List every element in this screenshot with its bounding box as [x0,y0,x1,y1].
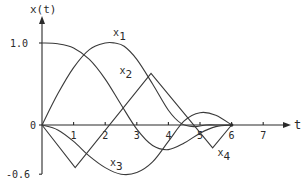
chart-svg: x(t)t1.00-0.61234567 x1x2x3x4 [0,0,303,187]
curve-x1 [42,42,232,126]
y-axis-label: x(t) [30,3,57,16]
x-tick-label: 7 [260,130,266,141]
x-axis-arrow-icon [283,122,291,128]
curve-x3 [42,112,232,174]
curve-label-x4: x4 [217,147,230,163]
curve-x4 [42,73,232,167]
curves [42,42,233,174]
endpoint-dot [230,123,234,127]
line-chart: x(t)t1.00-0.61234567 x1x2x3x4 [0,0,303,187]
y-tick-label: -0.6 [6,169,30,180]
curve-label-x1: x1 [113,27,126,43]
x-tick-label: 6 [229,130,235,141]
x-tick-label: 2 [102,130,108,141]
axes: x(t)t1.00-0.61234567 [6,3,301,180]
y-tick-label: 1.0 [10,38,28,49]
x-axis-label: t [294,118,301,132]
curve-label-x2: x2 [119,65,132,81]
y-tick-label: 0 [30,120,36,131]
y-axis-arrow-icon [39,16,45,24]
